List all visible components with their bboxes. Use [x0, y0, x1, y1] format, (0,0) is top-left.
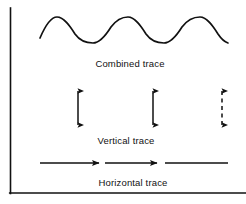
combined-trace-wave	[40, 17, 228, 43]
axis-lines	[10, 8, 246, 194]
vertical-trace-arrows	[78, 91, 222, 125]
combined-trace-label: Combined trace	[95, 58, 164, 69]
horizontal-trace-label: Horizontal trace	[99, 177, 168, 188]
vertical-trace-label: Vertical trace	[97, 135, 154, 146]
trace-diagram: Combined trace Vertical trace Horizontal…	[0, 0, 246, 204]
sine-wave-path	[40, 17, 228, 43]
diagram-canvas	[0, 0, 246, 204]
